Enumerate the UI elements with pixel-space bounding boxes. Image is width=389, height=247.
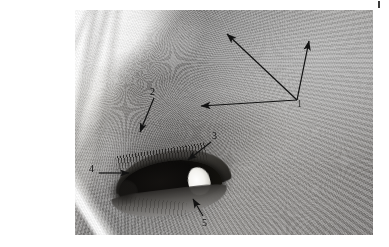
horse-eye <box>112 149 232 215</box>
callout-label-3: 3 <box>212 131 217 141</box>
callout-label-1: 1 <box>297 99 302 109</box>
callout-label-5: 5 <box>202 218 207 228</box>
figure-page: 1 2 3 4 5 <box>0 0 389 247</box>
callout-label-4: 4 <box>89 164 94 174</box>
photograph-plate <box>75 10 373 235</box>
registration-tick-icon <box>378 1 380 8</box>
callout-label-2: 2 <box>150 87 155 97</box>
